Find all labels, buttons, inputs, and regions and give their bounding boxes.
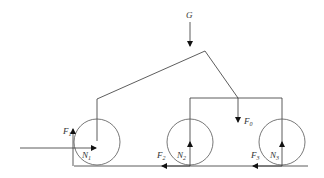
- free-body-diagram: G F0 F1 N1 F2 N2 F3 N3: [0, 0, 324, 178]
- label-g: G: [186, 10, 193, 20]
- label-f2: F2: [156, 150, 166, 161]
- label-n2: N2: [176, 150, 186, 161]
- label-f3: F3: [250, 150, 260, 161]
- rear-frame: [190, 98, 282, 146]
- label-n1: N1: [81, 150, 91, 161]
- label-n3: N3: [269, 150, 279, 161]
- body-frame: [97, 51, 238, 141]
- label-f1: F1: [62, 126, 72, 137]
- label-f0: F0: [243, 116, 253, 127]
